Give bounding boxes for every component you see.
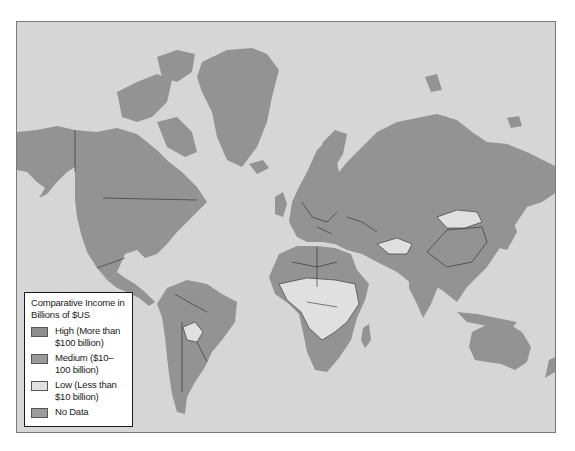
legend-item-high: High (More than $100 billion) <box>31 325 128 348</box>
high-swatch <box>31 327 48 337</box>
low-swatch <box>31 381 48 391</box>
legend-item-no-data: No Data <box>31 406 128 418</box>
legend-item-low: Low (Less than $10 billion) <box>31 379 128 402</box>
no-data-swatch <box>31 408 48 418</box>
legend-title: Comparative Income in Billions of $US <box>31 297 128 320</box>
legend-label-medium: Medium ($10–100 billion) <box>55 352 128 375</box>
map-legend: Comparative Income in Billions of $US Hi… <box>24 292 133 427</box>
legend-label-high: High (More than $100 billion) <box>55 325 128 348</box>
legend-item-medium: Medium ($10–100 billion) <box>31 352 128 375</box>
medium-swatch <box>31 354 48 364</box>
legend-label-no-data: No Data <box>55 406 128 418</box>
legend-label-low: Low (Less than $10 billion) <box>55 379 128 402</box>
